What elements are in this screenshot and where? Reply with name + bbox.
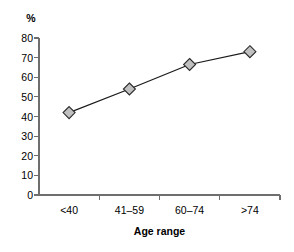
- y-tick-label-70: 70: [21, 52, 33, 64]
- y-tick-label-80: 80: [21, 32, 33, 44]
- y-tick-label-50: 50: [21, 91, 33, 103]
- y-axis-unit-label: %: [26, 12, 36, 24]
- x-axis-title: Age range: [134, 225, 186, 237]
- x-tick-label-2: 60–74: [175, 204, 204, 216]
- x-tick-label-3: >74: [241, 204, 259, 216]
- y-tick-label-20: 20: [21, 150, 33, 162]
- y-tick-label-0: 0: [27, 189, 33, 201]
- x-tick-label-0: <40: [60, 204, 78, 216]
- line-chart: % 80 70 60 50 40 30 20 10 0: [0, 0, 294, 252]
- y-tick-label-40: 40: [21, 111, 33, 123]
- y-tick-label-60: 60: [21, 71, 33, 83]
- x-tick-label-1: 41–59: [115, 204, 144, 216]
- y-tick-label-30: 30: [21, 130, 33, 142]
- y-tick-label-10: 10: [21, 169, 33, 181]
- chart-container: % 80 70 60 50 40 30 20 10 0: [0, 0, 294, 252]
